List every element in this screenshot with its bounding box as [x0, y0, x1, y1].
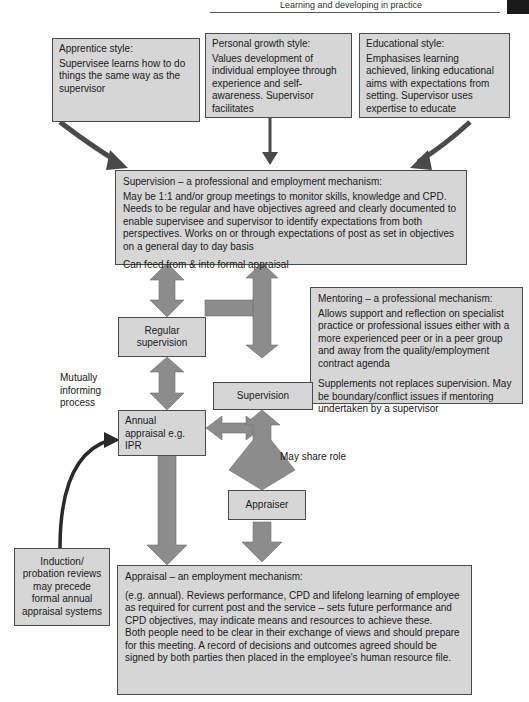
apprentice-style-title: Apprentice style: — [59, 43, 193, 56]
annual-appraisal-label: Annual appraisal e.g. IPR — [125, 415, 185, 451]
mentoring-mechanism-footer: Supplements not replaces supervision. Ma… — [318, 378, 515, 416]
double-arrow-annual-supervision — [206, 416, 262, 440]
mentoring-mechanism-body: Allows support and reflection on special… — [318, 308, 515, 371]
educational-style-body: Emphasises learning achieved, linking ed… — [366, 53, 503, 116]
double-arrow-supervision-appraiser — [229, 410, 295, 490]
induction-probation-label: Induction/ probation reviews may precede… — [21, 556, 103, 619]
page-header: Learning and developing in practice — [0, 0, 529, 14]
supervision-mechanism-title: Supervision – a professional and employm… — [123, 176, 459, 189]
connector-horizontal — [205, 300, 253, 316]
double-arrow-supervision-node — [246, 263, 278, 358]
personal-growth-style-title: Personal growth style: — [212, 38, 345, 51]
annual-appraisal-node: Annual appraisal e.g. IPR — [118, 410, 206, 456]
corner-tab — [507, 0, 529, 14]
apprentice-style-box: Apprentice style: Supervisee learns how … — [52, 38, 200, 122]
regular-supervision-label: Regular supervision — [125, 325, 199, 350]
induction-curve-arrow — [60, 440, 110, 548]
educational-style-box: Educational style: Emphasises learning a… — [359, 33, 510, 118]
supervision-node-label: Supervision — [237, 390, 289, 403]
mentoring-mechanism-title: Mentoring – a professional mechanism: — [318, 293, 515, 306]
appraiser-node: Appraiser — [228, 490, 306, 520]
supervision-mechanism-body: May be 1:1 and/or group meetings to moni… — [123, 191, 459, 254]
appraisal-mechanism-body-1: (e.g. annual). Reviews performance, CPD … — [125, 590, 464, 628]
personal-growth-style-box: Personal growth style: Values developmen… — [205, 33, 352, 118]
regular-supervision-node: Regular supervision — [118, 317, 206, 357]
arrow-annual-to-appraisal — [147, 455, 187, 565]
supervision-mechanism-box: Supervision – a professional and employm… — [115, 170, 467, 265]
apprentice-style-body: Supervisee learns how to do things the s… — [59, 58, 193, 96]
educational-style-title: Educational style: — [366, 38, 503, 51]
apprentice-curve-arrow — [60, 122, 118, 162]
appraisal-mechanism-title: Appraisal – an employment mechanism: — [125, 571, 464, 584]
arrow-appraiser-to-appraisal — [242, 522, 282, 562]
appraisal-mechanism-body-2: Both people need to be clear in their ex… — [125, 627, 464, 665]
header-rule — [210, 12, 500, 13]
may-share-role-label: May share role — [280, 451, 346, 464]
running-head: Learning and developing in practice — [280, 0, 422, 10]
personal-growth-style-body: Values development of individual employe… — [212, 53, 345, 116]
supervision-node: Supervision — [213, 382, 313, 410]
appraisal-mechanism-box: Appraisal – an employment mechanism: (e.… — [117, 565, 472, 695]
appraiser-node-label: Appraiser — [246, 499, 289, 512]
mutually-informing-label: Mutually informing process — [60, 372, 130, 410]
double-arrow-regular-annual — [150, 357, 184, 410]
supervision-mechanism-footer: Can feed from & into formal appraisal — [123, 259, 459, 272]
mentoring-mechanism-box: Mentoring – a professional mechanism: Al… — [310, 287, 523, 404]
educational-curve-arrow — [418, 122, 470, 162]
induction-probation-box: Induction/ probation reviews may precede… — [14, 548, 110, 626]
